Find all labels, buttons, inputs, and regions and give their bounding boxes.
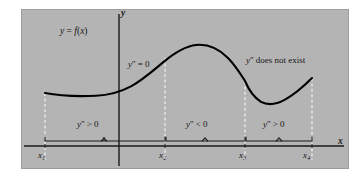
interval-brace-1 xyxy=(45,137,165,141)
interval-brace-3 xyxy=(246,137,312,141)
interval-brace-2 xyxy=(166,137,245,141)
function-curve xyxy=(45,45,312,104)
figure-root: y = f(x) y″ = 0 y″ does not exist y″ > 0… xyxy=(0,0,363,178)
plot-svg xyxy=(0,0,363,178)
